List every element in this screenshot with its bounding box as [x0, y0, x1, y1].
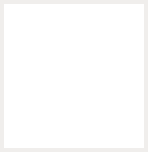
label-y-eq-3x2-eq: =: [27, 120, 32, 130]
label-y-equals-x-squared: y=x2: [9, 86, 30, 96]
label-y-eq-3x2-exp: 2: [44, 118, 47, 125]
label-y-equals-3x-squared: y=3x2: [21, 121, 47, 131]
leader-y-eq-x2: [40, 72, 56, 84]
leader-y-eq-3x2: [46, 97, 71, 118]
label-y-eq-half-x2-lhs: y: [97, 86, 101, 96]
label-y-eq-x2-lhs: y: [9, 85, 13, 95]
fraction-denominator: 2: [111, 91, 116, 99]
label-y-eq-half-x2-exp: 2: [122, 84, 125, 91]
leader-y-eq-half-x2: [116, 56, 125, 79]
label-y-eq-x2-exp: 2: [27, 83, 30, 90]
fraction-numerator: 1: [111, 84, 116, 91]
label-half-fraction: 12: [111, 84, 116, 98]
label-y-eq-half-x2-eq: =: [103, 86, 108, 96]
label-y-eq-3x2-lhs: y: [21, 120, 25, 130]
parabola-figure: y=x2 y=3x2 y=12x2: [0, 0, 148, 152]
label-y-equals-half-x-squared: y=12x2: [97, 84, 125, 98]
label-y-eq-x2-eq: =: [15, 85, 20, 95]
